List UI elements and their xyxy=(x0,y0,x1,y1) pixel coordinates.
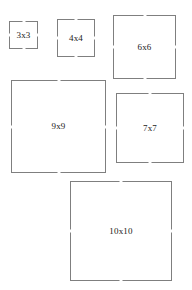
square-4x4: 4x4 xyxy=(57,19,95,57)
edge-break-left xyxy=(9,34,10,37)
edge-break-left xyxy=(11,125,12,128)
square-10x10: 10x10 xyxy=(70,181,172,281)
square-9x9: 9x9 xyxy=(11,80,106,173)
edge-break-left xyxy=(113,46,114,49)
square-label: 3x3 xyxy=(16,31,30,40)
diagram-canvas: 3x34x46x69x97x710x10 xyxy=(0,0,192,290)
square-label: 9x9 xyxy=(51,122,65,131)
square-6x6: 6x6 xyxy=(113,15,176,79)
edge-break-left xyxy=(70,230,71,233)
edge-break-right xyxy=(171,230,172,233)
square-3x3: 3x3 xyxy=(9,21,38,49)
edge-break-right xyxy=(94,37,95,40)
square-label: 7x7 xyxy=(143,124,157,133)
square-label: 6x6 xyxy=(137,43,151,52)
edge-break-right xyxy=(105,125,106,128)
edge-break-right xyxy=(175,46,176,49)
edge-break-right xyxy=(183,127,184,130)
square-label: 4x4 xyxy=(69,34,83,43)
edge-break-left xyxy=(57,37,58,40)
square-7x7: 7x7 xyxy=(116,93,184,163)
square-label: 10x10 xyxy=(109,227,133,236)
edge-break-left xyxy=(116,127,117,130)
edge-break-right xyxy=(37,34,38,37)
